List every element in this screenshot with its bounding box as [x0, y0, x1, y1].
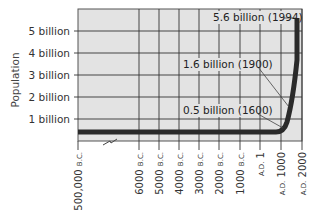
y-tick-label: 5 billion	[29, 25, 70, 37]
x-tick-label: A.D. 2000	[297, 152, 308, 195]
y-axis-ticks: 5 billion 4 billion 3 billion 2 billion …	[29, 25, 70, 125]
x-tick-label: A.D. 1	[255, 152, 266, 176]
y-tick-label: 2 billion	[29, 91, 70, 103]
y-tick-label: 1 billion	[29, 113, 70, 125]
x-tick-label: 4000 B.C.	[174, 152, 185, 195]
y-tick-label: 4 billion	[29, 47, 70, 59]
annotation-1600: 0.5 billion (1600)	[183, 104, 273, 116]
annotation-1994: 5.6 billion (1994)	[213, 11, 303, 23]
x-axis-ticks: 500,000 B.C. 6000 B.C. 5000 B.C. 4000 B.…	[73, 152, 308, 211]
x-tick-label: A.D. 1000	[276, 152, 287, 195]
x-tick-label: 5000 B.C.	[154, 152, 165, 195]
x-tick-label: 500,000 B.C.	[73, 152, 84, 211]
y-tick-label: 3 billion	[29, 69, 70, 81]
x-tick-label: 2000 B.C.	[214, 152, 225, 195]
y-axis-label: Population	[9, 52, 21, 107]
x-tick-label: 3000 B.C.	[194, 152, 205, 195]
annotation-1900: 1.6 billion (1900)	[183, 58, 273, 70]
x-tick-label: 6000 B.C.	[134, 152, 145, 195]
x-tick-label: 1000 B.C.	[235, 152, 246, 195]
population-chart: 5.6 billion (1994) 1.6 billion (1900) 0.…	[0, 0, 318, 222]
